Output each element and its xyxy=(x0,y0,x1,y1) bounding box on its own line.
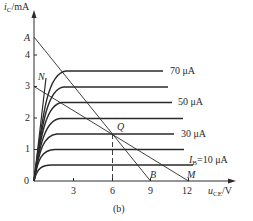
x-tick-3: 3 xyxy=(71,186,76,196)
y-axis-unit: /mA xyxy=(11,1,29,12)
x-tick-9: 9 xyxy=(148,186,153,196)
point-label-A: A xyxy=(24,33,30,43)
point-label-M: M xyxy=(187,170,195,180)
curve-label-50ua: 50 μA xyxy=(178,97,203,107)
x-tick-6: 6 xyxy=(110,186,115,196)
x-tick-12: 12 xyxy=(182,186,192,196)
figure-caption: (b) xyxy=(113,204,125,214)
x-axis-subscript: CE xyxy=(213,190,222,198)
y-axis-title: iC/mA xyxy=(4,2,29,14)
y-tick-3: 3 xyxy=(25,81,30,91)
curve-label-70ua: 70 μA xyxy=(170,66,195,76)
point-label-Q: Q xyxy=(117,122,124,132)
ib-curves xyxy=(34,71,193,181)
x-axis-title: uCE/V xyxy=(208,186,232,198)
y-tick-1: 1 xyxy=(25,144,30,154)
curve-label-10ua: IB=10 μA xyxy=(189,155,228,167)
curve-ib-10 xyxy=(34,165,193,181)
point-label-N: N xyxy=(38,72,45,82)
y-tick-4: 4 xyxy=(25,50,30,60)
load-lines xyxy=(34,37,189,181)
curve-label-30ua: 30 μA xyxy=(181,129,206,139)
x-axis-arrow-icon xyxy=(228,179,236,184)
point-label-B: B xyxy=(150,170,156,180)
y-axis-arrow-icon xyxy=(32,10,37,18)
y-tick-2: 2 xyxy=(25,113,30,123)
y-tick-0: 0 xyxy=(24,176,29,186)
x-axis-unit: /V xyxy=(222,185,232,196)
